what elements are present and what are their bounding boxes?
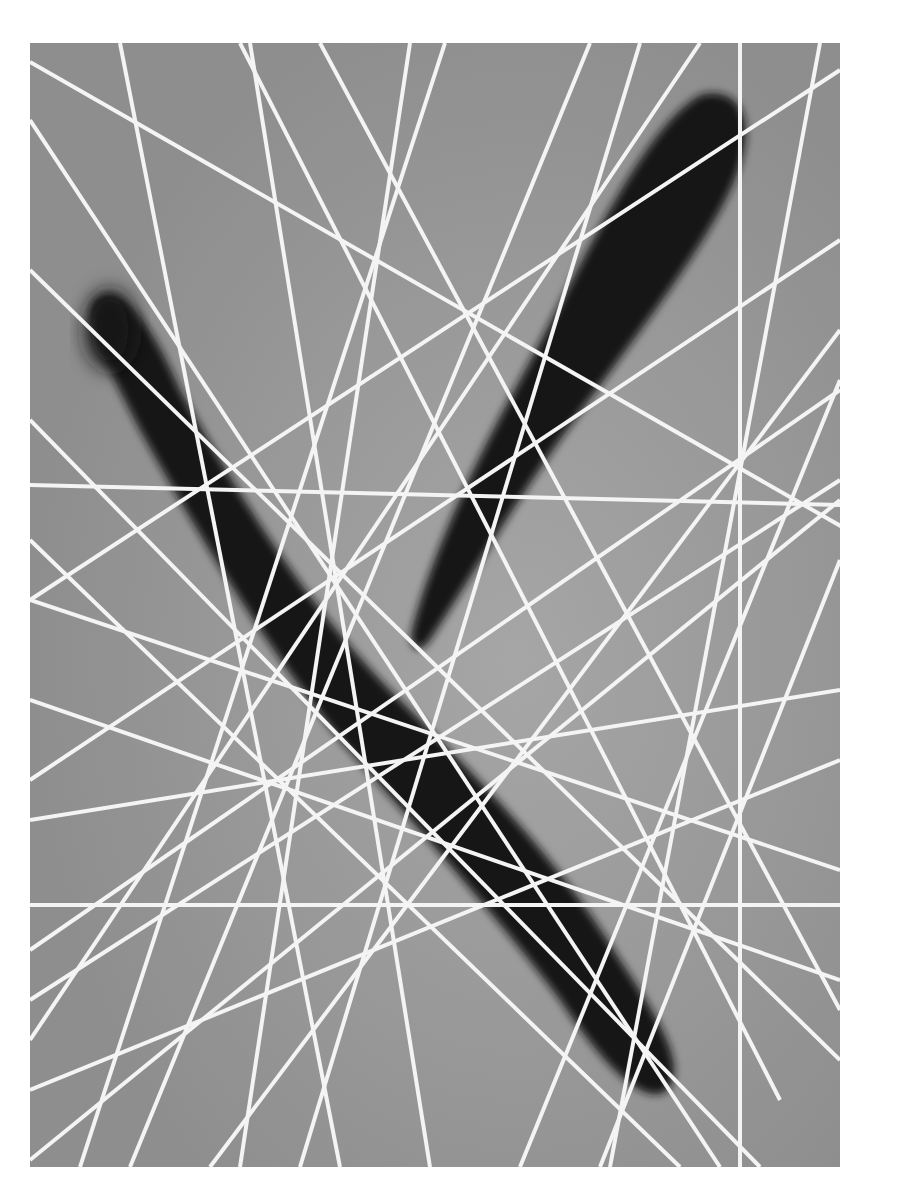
photogram-artwork [0, 0, 905, 1201]
